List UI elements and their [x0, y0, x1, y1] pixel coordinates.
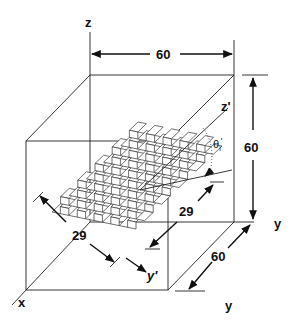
- surface-tile-side: [111, 207, 119, 216]
- surface-tile-side: [77, 210, 85, 219]
- surface-tile-side: [128, 190, 136, 199]
- surface-tile-side: [112, 177, 120, 186]
- z-axis: z: [85, 15, 92, 75]
- surface-width-label: 29: [179, 204, 193, 219]
- surface-tile-side: [146, 134, 154, 143]
- surface-tile-side: [128, 220, 136, 229]
- surface-tile-side: [163, 147, 171, 156]
- surface-tile-side: [111, 187, 119, 196]
- surface-tile-side: [180, 141, 188, 150]
- surface-tile-side: [145, 204, 153, 213]
- z-prime-label: z': [221, 99, 231, 114]
- surface-tile-side: [129, 150, 137, 159]
- surface-tile-side: [95, 174, 103, 183]
- surface-tile-side: [111, 197, 119, 206]
- height-dimension: 60: [242, 75, 268, 219]
- surface-tile-side: [129, 170, 137, 179]
- surface-tile-side: [179, 161, 187, 170]
- angle-label: θi': [213, 136, 223, 152]
- surface-tile-side: [146, 154, 154, 163]
- surface-tile-side: [94, 204, 102, 213]
- surface-tile-side: [128, 200, 136, 209]
- depth-label: 60: [211, 249, 225, 264]
- y-axis-label-right: y: [274, 216, 282, 231]
- top-width-label: 60: [156, 47, 170, 62]
- surface-tile-side: [78, 190, 86, 199]
- surface-tile-side: [112, 147, 120, 156]
- surface-tile-side: [128, 210, 136, 219]
- surface-tile-side: [129, 160, 137, 169]
- surface-tile-side: [129, 130, 137, 139]
- surface-tile-side: [95, 184, 103, 193]
- surface-tile-side: [197, 144, 205, 153]
- surface-tile-side: [128, 180, 136, 189]
- simulation-box-diagram: z 60 60 y 60 x y z' θi': [0, 0, 296, 327]
- rough-surface: [52, 122, 222, 229]
- depth-dimension: 60: [175, 225, 250, 291]
- surface-tile-side: [61, 197, 69, 206]
- surface-tile-side: [112, 157, 120, 166]
- surface-tile-side: [95, 164, 103, 173]
- surface-tile-side: [196, 154, 204, 163]
- surface-tile-side: [60, 207, 68, 216]
- surface-tile-side: [111, 217, 119, 226]
- surface-tile-side: [162, 187, 170, 196]
- surface-tile-side: [163, 137, 171, 146]
- surface-tile-side: [112, 167, 120, 176]
- surface-tile-side: [179, 171, 187, 180]
- surface-tile-side: [145, 194, 153, 203]
- y-axis-label-bottom: y: [225, 298, 233, 313]
- y-prime-axis: y': [126, 258, 158, 283]
- top-dimension: 60: [92, 40, 234, 75]
- surface-tile-side: [146, 164, 154, 173]
- surface-tile-side: [94, 194, 102, 203]
- height-label: 60: [244, 140, 258, 155]
- x-axis-label: x: [18, 295, 26, 310]
- surface-length-label: 29: [72, 228, 86, 243]
- surface-tile-side: [146, 144, 154, 153]
- surface-tile-side: [94, 214, 102, 223]
- y-prime-label: y': [146, 268, 158, 283]
- surface-tile-side: [129, 140, 137, 149]
- z-axis-label: z: [85, 15, 92, 30]
- surface-tile-side: [78, 180, 86, 189]
- surface-tile-side: [77, 200, 85, 209]
